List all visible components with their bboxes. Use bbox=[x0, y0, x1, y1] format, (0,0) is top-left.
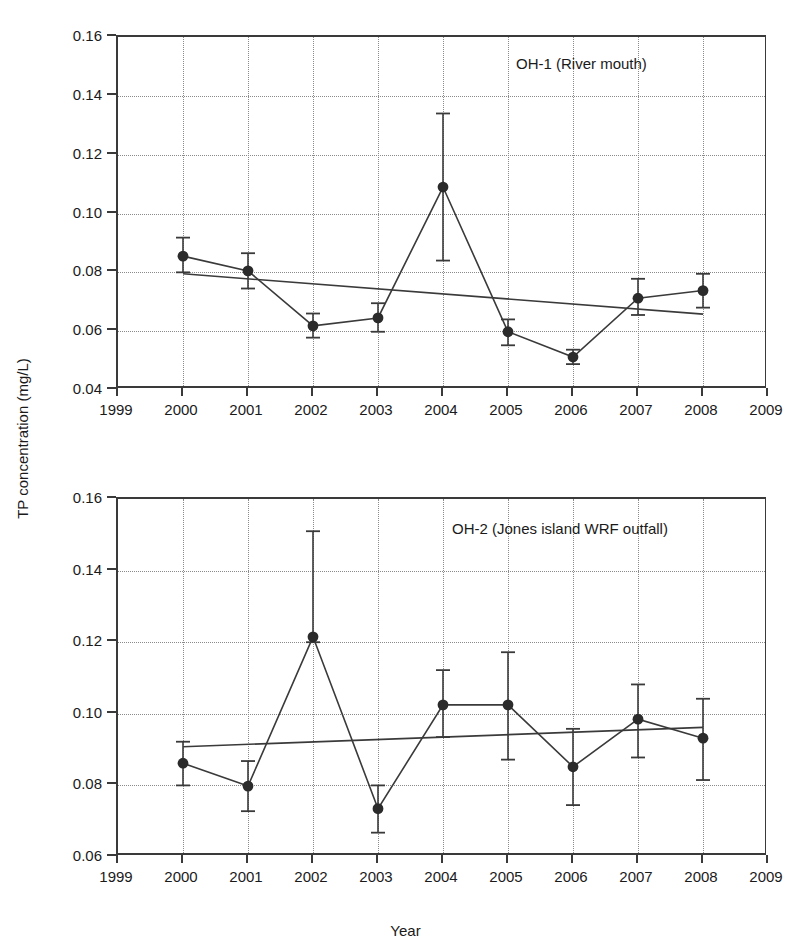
x-axis-tick-label: 2000 bbox=[164, 868, 197, 885]
data-point-group bbox=[501, 652, 515, 759]
x-axis-tick-mark bbox=[571, 855, 573, 863]
data-point-group bbox=[306, 314, 320, 338]
y-axis-tick-label: 0.10 bbox=[73, 703, 102, 720]
x-axis-tick-mark bbox=[636, 855, 638, 863]
data-point-marker bbox=[373, 803, 384, 814]
data-point-group bbox=[696, 699, 710, 780]
data-point-group bbox=[306, 531, 320, 642]
x-axis-tick-label: 2001 bbox=[229, 401, 262, 418]
x-axis-tick-mark bbox=[181, 388, 183, 396]
chart-panel-oh2: OH-2 (Jones island WRF outfall) Year 0.1… bbox=[0, 470, 811, 952]
y-axis-tick-label: 0.16 bbox=[73, 489, 102, 506]
panel-title-oh1: OH-1 (River mouth) bbox=[516, 55, 647, 72]
x-axis-tick-label: 2005 bbox=[489, 401, 522, 418]
trend-line bbox=[183, 274, 703, 314]
data-point-group bbox=[696, 274, 710, 308]
data-point-marker bbox=[698, 285, 709, 296]
x-axis-tick-mark bbox=[701, 855, 703, 863]
data-point-marker bbox=[308, 631, 319, 642]
data-point-marker bbox=[308, 320, 319, 331]
x-axis-tick-label: 2009 bbox=[749, 401, 782, 418]
x-axis-tick-label: 2008 bbox=[684, 401, 717, 418]
y-axis-tick-mark bbox=[107, 34, 116, 36]
data-point-group bbox=[371, 785, 385, 832]
x-axis-tick-mark bbox=[766, 855, 768, 863]
data-point-marker bbox=[243, 781, 254, 792]
x-axis-tick-mark bbox=[506, 388, 508, 396]
data-point-group bbox=[566, 729, 580, 805]
data-point-group bbox=[241, 761, 255, 811]
x-axis-tick-label: 2002 bbox=[294, 868, 327, 885]
y-axis-tick-mark bbox=[107, 211, 116, 213]
x-axis-tick-label: 2006 bbox=[554, 401, 587, 418]
panel-title-oh2: OH-2 (Jones island WRF outfall) bbox=[452, 520, 668, 537]
data-point-marker bbox=[568, 761, 579, 772]
data-series-layer bbox=[118, 499, 768, 857]
data-point-marker bbox=[438, 182, 449, 193]
y-axis-tick-label: 0.04 bbox=[73, 380, 102, 397]
y-axis-tick-label: 0.14 bbox=[73, 85, 102, 102]
data-point-group bbox=[631, 684, 645, 757]
x-axis-tick-mark bbox=[571, 388, 573, 396]
x-axis-tick-mark bbox=[311, 388, 313, 396]
x-axis-tick-label: 2005 bbox=[489, 868, 522, 885]
data-point-marker bbox=[633, 714, 644, 725]
y-axis-tick-mark bbox=[107, 639, 116, 641]
chart-panel-oh1: OH-1 (River mouth) 0.160.140.120.100.080… bbox=[0, 0, 811, 440]
x-axis-tick-mark bbox=[506, 855, 508, 863]
data-point-marker bbox=[243, 265, 254, 276]
x-axis-tick-mark bbox=[246, 855, 248, 863]
data-point-marker bbox=[438, 699, 449, 710]
x-axis-tick-mark bbox=[701, 388, 703, 396]
data-point-group bbox=[436, 670, 450, 737]
y-axis-tick-mark bbox=[107, 711, 116, 713]
x-axis-tick-mark bbox=[766, 388, 768, 396]
plot-area-oh1 bbox=[116, 35, 766, 388]
y-axis-tick-mark bbox=[107, 387, 116, 389]
y-axis-tick-label: 0.06 bbox=[73, 321, 102, 338]
y-axis-tick-mark bbox=[107, 152, 116, 154]
data-point-group bbox=[176, 742, 190, 786]
data-point-marker bbox=[568, 352, 579, 363]
y-axis-tick-mark bbox=[107, 328, 116, 330]
x-axis-tick-mark bbox=[636, 388, 638, 396]
y-axis-tick-label: 0.12 bbox=[73, 632, 102, 649]
y-axis-tick-mark bbox=[107, 269, 116, 271]
data-point-marker bbox=[503, 326, 514, 337]
x-axis-tick-label: 2004 bbox=[424, 868, 457, 885]
x-axis-tick-mark bbox=[246, 388, 248, 396]
x-axis-tick-label: 2008 bbox=[684, 868, 717, 885]
data-point-marker bbox=[633, 293, 644, 304]
figure-root: TP concentration (mg/L) OH-1 (River mout… bbox=[0, 0, 811, 952]
x-axis-tick-mark bbox=[311, 855, 313, 863]
x-axis-tick-mark bbox=[181, 855, 183, 863]
y-axis-tick-label: 0.08 bbox=[73, 262, 102, 279]
data-point-group bbox=[176, 238, 190, 273]
x-axis-tick-label: 2007 bbox=[619, 401, 652, 418]
data-point-marker bbox=[698, 733, 709, 744]
x-axis-tick-label: 2000 bbox=[164, 401, 197, 418]
y-axis-tick-mark bbox=[107, 854, 116, 856]
x-axis-tick-mark bbox=[116, 388, 118, 396]
y-axis-tick-mark bbox=[107, 496, 116, 498]
x-axis-tick-label: 2007 bbox=[619, 868, 652, 885]
x-axis-tick-mark bbox=[441, 388, 443, 396]
x-axis-tick-label: 1999 bbox=[99, 868, 132, 885]
x-axis-tick-label: 2004 bbox=[424, 401, 457, 418]
data-series-layer bbox=[118, 37, 768, 390]
data-point-group bbox=[241, 253, 255, 288]
data-point-group bbox=[436, 113, 450, 260]
y-axis-tick-label: 0.14 bbox=[73, 560, 102, 577]
x-axis-tick-label: 2003 bbox=[359, 868, 392, 885]
data-point-group bbox=[501, 319, 515, 345]
x-axis-tick-label: 2009 bbox=[749, 868, 782, 885]
x-axis-tick-label: 1999 bbox=[99, 401, 132, 418]
x-axis-tick-mark bbox=[376, 855, 378, 863]
y-axis-tick-mark bbox=[107, 568, 116, 570]
y-axis-tick-label: 0.16 bbox=[73, 27, 102, 44]
x-axis-tick-label: 2001 bbox=[229, 868, 262, 885]
x-axis-tick-label: 2003 bbox=[359, 401, 392, 418]
y-axis-tick-label: 0.06 bbox=[73, 847, 102, 864]
y-axis-tick-mark bbox=[107, 93, 116, 95]
y-axis-tick-label: 0.08 bbox=[73, 775, 102, 792]
